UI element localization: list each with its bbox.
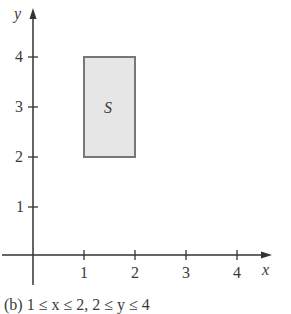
y-tick-label-3: 3 [15, 98, 23, 115]
x-tick-label-2: 2 [131, 264, 139, 281]
x-axis-arrow-icon [261, 252, 272, 259]
figure-caption: (b) 1 ≤ x ≤ 2, 2 ≤ y ≤ 4 [4, 296, 150, 314]
x-axis-label: x [261, 261, 269, 278]
y-tick-label-2: 2 [15, 148, 23, 165]
x-tick-label-4: 4 [233, 264, 241, 281]
y-axis-label: y [12, 5, 22, 23]
y-tick-label-4: 4 [15, 48, 23, 65]
y-tick-label-1: 1 [16, 198, 24, 215]
region-label: S [104, 99, 112, 116]
x-tick-label-3: 3 [182, 264, 190, 281]
x-tick-label-1: 1 [80, 264, 88, 281]
y-axis-arrow-icon [30, 8, 37, 19]
